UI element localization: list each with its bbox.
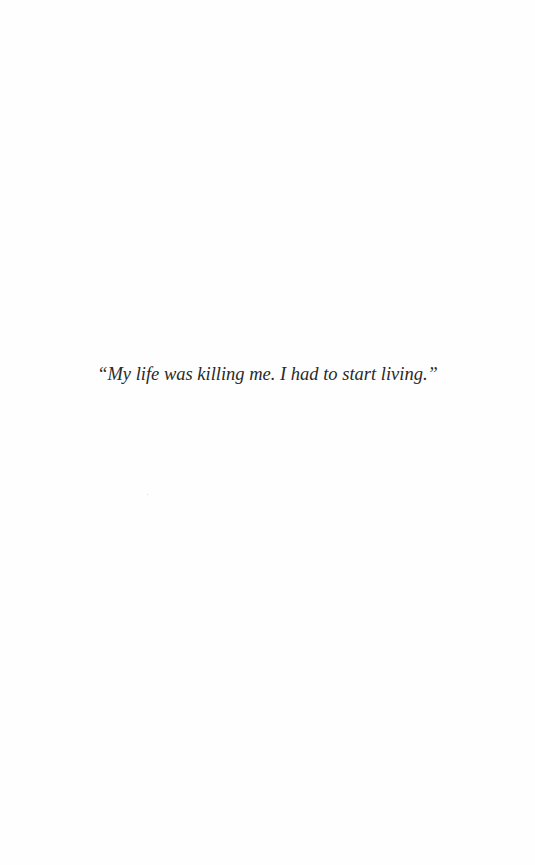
book-page: “My life was killing me. I had to start … <box>0 0 535 865</box>
epigraph-quote: “My life was killing me. I had to start … <box>0 364 535 385</box>
paper-speck <box>147 494 148 495</box>
